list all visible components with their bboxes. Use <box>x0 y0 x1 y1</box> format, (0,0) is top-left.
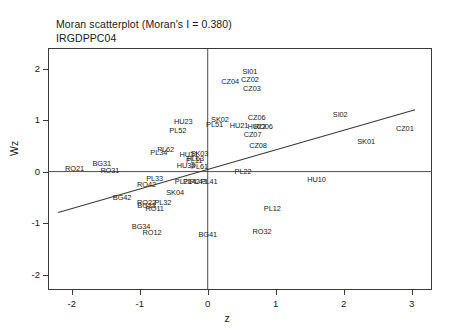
y-tick-label: -2 <box>20 269 40 280</box>
data-point-label: SI02 <box>333 111 348 118</box>
data-point-label: PL34 <box>150 149 167 156</box>
x-tick-label: -2 <box>58 298 86 309</box>
x-tick-mark <box>344 290 345 295</box>
data-point-label: HU10 <box>307 176 326 183</box>
data-point-label: RO11 <box>146 205 164 212</box>
chart-subtitle: IRGDPPC04 <box>56 32 116 44</box>
x-tick-label: -1 <box>126 298 154 309</box>
x-tick-mark <box>208 290 209 295</box>
data-point-label: BG41 <box>198 232 217 239</box>
data-point-label: PL52 <box>169 128 186 135</box>
x-tick-label: 2 <box>330 298 358 309</box>
data-point-label: PL42 <box>183 179 200 186</box>
data-point-label: SK04 <box>166 189 184 196</box>
y-tick-mark <box>43 172 48 173</box>
data-point-label: CZ06 <box>248 114 266 121</box>
data-point-label: SK01 <box>357 138 375 145</box>
data-point-label: PL12 <box>264 205 281 212</box>
data-point-label: CZ04 <box>221 78 239 85</box>
x-tick-mark <box>72 290 73 295</box>
data-point-label: PL41 <box>201 179 218 186</box>
x-tick-mark <box>276 290 277 295</box>
x-tick-label: 3 <box>398 298 426 309</box>
y-tick-mark <box>43 223 48 224</box>
data-point-label: RO12 <box>143 230 162 237</box>
data-point-label: PL51 <box>206 122 223 129</box>
data-point-label: PL22 <box>235 168 252 175</box>
data-point-label: CZ02 <box>241 76 259 83</box>
x-axis-label: z <box>0 312 454 324</box>
data-point-label: HU23 <box>174 118 193 125</box>
data-point-label: RO32 <box>253 229 272 236</box>
chart-title: Moran scatterplot (Moran's I = 0.380) <box>56 18 232 30</box>
y-axis-label: Wz <box>8 141 20 156</box>
y-tick-mark <box>43 275 48 276</box>
y-tick-mark <box>43 120 48 121</box>
y-tick-mark <box>43 69 48 70</box>
data-point-label: CZ01 <box>396 126 414 133</box>
data-point-label: BG42 <box>113 195 132 202</box>
data-point-label: RO42 <box>137 181 156 188</box>
x-tick-mark <box>412 290 413 295</box>
x-tick-mark <box>140 290 141 295</box>
moran-scatterplot: Moran scatterplot (Moran's I = 0.380) IR… <box>0 0 454 333</box>
data-point-label: PL61 <box>191 163 208 170</box>
y-tick-label: 0 <box>20 166 40 177</box>
data-point-label: RO21 <box>65 165 84 172</box>
x-tick-label: 1 <box>262 298 290 309</box>
data-point-label: CZ08 <box>249 142 267 149</box>
data-point-label: CZ07 <box>244 131 262 138</box>
y-tick-label: -1 <box>20 217 40 228</box>
data-point-label: CZ03 <box>243 85 261 92</box>
data-point-label: RO31 <box>100 167 119 174</box>
x-tick-label: 0 <box>194 298 222 309</box>
y-tick-label: 1 <box>20 114 40 125</box>
y-tick-label: 2 <box>20 63 40 74</box>
